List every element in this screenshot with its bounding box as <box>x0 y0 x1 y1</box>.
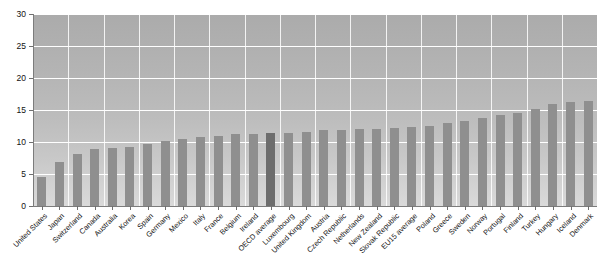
y-tick-label: 25 <box>2 42 26 51</box>
y-tick-mark <box>29 142 33 143</box>
bar <box>513 113 522 206</box>
bar <box>55 162 64 206</box>
bar <box>196 137 205 206</box>
bar <box>390 128 399 206</box>
bar <box>478 118 487 206</box>
y-tick-label: 20 <box>2 74 26 83</box>
bar <box>214 136 223 206</box>
bar <box>178 139 187 206</box>
bar <box>125 147 134 206</box>
bar <box>337 130 346 206</box>
bar <box>584 101 593 206</box>
bar <box>73 154 82 206</box>
bar <box>37 177 46 206</box>
bar <box>90 149 99 206</box>
y-tick-mark <box>29 174 33 175</box>
bar <box>425 126 434 206</box>
bar <box>319 130 328 206</box>
y-axis-line <box>33 14 34 206</box>
bar <box>161 141 170 206</box>
x-axis-labels: United StatesJapanSwitzerlandCanadaAustr… <box>0 206 597 264</box>
bar <box>548 104 557 206</box>
bar-series <box>33 14 597 206</box>
y-tick-label: 15 <box>2 106 26 115</box>
bar <box>355 129 364 206</box>
bar <box>108 148 117 206</box>
bar <box>249 134 258 206</box>
bar <box>531 109 540 206</box>
bar <box>566 102 575 206</box>
y-tick-mark <box>29 78 33 79</box>
bar-chart: 051015202530 United StatesJapanSwitzerla… <box>0 0 597 264</box>
plot-area <box>33 14 597 206</box>
bar <box>407 127 416 206</box>
y-tick-label: 10 <box>2 138 26 147</box>
bar <box>460 121 469 206</box>
y-tick-mark <box>29 46 33 47</box>
bar <box>372 129 381 206</box>
y-tick-label: 5 <box>2 170 26 179</box>
bar <box>302 132 311 206</box>
bar <box>231 134 240 206</box>
bar <box>143 144 152 206</box>
bar <box>284 133 293 206</box>
y-tick-mark <box>29 14 33 15</box>
bar <box>266 133 275 206</box>
bar <box>496 115 505 206</box>
y-tick-label: 30 <box>2 10 26 19</box>
bar <box>443 123 452 206</box>
chart-title-cropped <box>0 0 597 5</box>
y-tick-mark <box>29 110 33 111</box>
